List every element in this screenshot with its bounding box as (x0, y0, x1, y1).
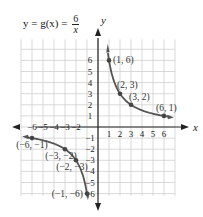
data-point (107, 58, 112, 63)
y-axis-label: y (100, 14, 106, 26)
x-tick-label: −3 (60, 122, 70, 132)
y-tick-label: −2 (85, 144, 95, 154)
point-label: (−2, −3) (56, 162, 87, 173)
x-tick-label: 3 (129, 129, 134, 139)
x-axis-arrow-right-icon (181, 124, 189, 130)
y-tick-label: 2 (88, 100, 93, 110)
data-point (85, 191, 90, 196)
x-tick-label: −4 (49, 122, 59, 132)
y-tick-label: −1 (85, 133, 95, 143)
x-tick-label: 2 (118, 129, 123, 139)
x-tick-label: 5 (151, 129, 156, 139)
x-tick-label: −2 (71, 122, 81, 132)
x-tick-label: 6 (162, 129, 167, 139)
point-label: (3, 2) (129, 92, 150, 103)
point-label: (2, 3) (117, 80, 138, 91)
y-tick-label: 3 (88, 89, 93, 99)
point-label: (1, 6) (113, 55, 134, 66)
data-point (129, 103, 134, 108)
x-tick-label: 4 (140, 129, 145, 139)
data-point (162, 114, 167, 119)
point-label: (−3, −2) (45, 151, 76, 162)
point-label: (−1, −6) (52, 189, 83, 200)
chart-canvas: xy −6−5−4−3−2123456−6−5−4−3−2−1123456 (1… (0, 0, 203, 217)
y-tick-label: 1 (88, 111, 93, 121)
curve-arrow-icon (22, 135, 29, 139)
y-axis-arrow-down-icon (95, 203, 101, 211)
curve-arrow-icon (167, 115, 174, 119)
point-label: (6, 1) (156, 103, 177, 114)
y-tick-label: −5 (85, 178, 95, 188)
y-tick-label: 4 (88, 78, 93, 88)
y-tick-label: 6 (88, 55, 93, 65)
point-label: (−6, −1) (16, 140, 47, 151)
y-tick-label: 5 (88, 67, 93, 77)
y-axis-arrow-up-icon (95, 28, 101, 36)
data-point (118, 91, 123, 96)
x-axis-label: x (192, 121, 198, 133)
x-axis-arrow-left-icon (12, 124, 20, 130)
x-tick-label: −6 (27, 122, 37, 132)
x-tick-label: 1 (107, 129, 112, 139)
x-tick-label: −5 (38, 122, 48, 132)
